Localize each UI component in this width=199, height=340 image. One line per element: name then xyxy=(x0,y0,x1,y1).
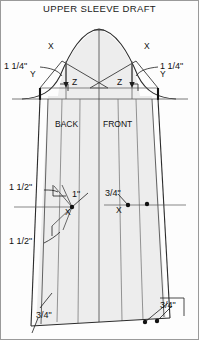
dimension-hem-left: 3/4" xyxy=(36,311,52,320)
label-x-mid-right: X xyxy=(116,206,122,215)
label-z-right-cap: Z xyxy=(117,78,122,87)
dimension-hem-right: 3/4" xyxy=(160,301,176,310)
cap-left-diagonal-xy xyxy=(40,61,62,88)
dimension-lower-left: 1 1/2" xyxy=(9,237,32,246)
label-x-right-cap: X xyxy=(144,42,150,51)
dimension-cap-right: 1 1/4" xyxy=(160,62,183,71)
cap-right-diagonal-xy xyxy=(136,61,158,88)
label-z-left-cap: Z xyxy=(72,78,77,87)
dimension-mid-left: 1" xyxy=(72,190,80,199)
label-y-left-cap: Y xyxy=(30,70,36,79)
dimension-mid-right: 3/4" xyxy=(105,189,121,198)
pivot-point-right xyxy=(126,203,130,207)
dimension-upper-left: 1 1/2" xyxy=(9,183,32,192)
label-back-section: BACK xyxy=(55,120,78,129)
label-front-section: FRONT xyxy=(103,120,132,129)
label-x-left-cap: X xyxy=(48,42,54,51)
label-y-right-cap: Y xyxy=(160,70,166,79)
pivot-point-right-2 xyxy=(145,202,149,206)
label-x-mid-left: X xyxy=(65,208,71,217)
dimension-cap-left: 1 1/4" xyxy=(4,62,27,71)
sleeve-draft-diagram xyxy=(0,0,199,340)
